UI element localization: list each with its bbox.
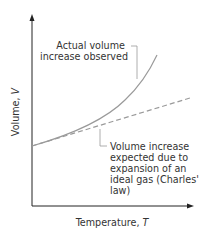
y-axis-arrow-icon <box>30 14 35 21</box>
ideal-label-line4: ideal gas (Charles' <box>110 174 199 185</box>
actual-volume-curve <box>32 55 157 146</box>
ideal-label-line1: Volume increase <box>110 141 189 152</box>
y-axis-label-var: V <box>10 86 21 94</box>
x-axis-arrow-icon <box>187 204 194 209</box>
ideal-leader-line <box>100 129 107 146</box>
x-axis-label-var: T <box>143 217 150 228</box>
x-axis <box>32 204 194 209</box>
ideal-label-line5: law) <box>110 185 130 196</box>
actual-label: Actual volume increase observed <box>40 40 128 62</box>
ideal-label-line2: expected due to <box>110 152 188 163</box>
actual-leader-line <box>131 46 137 79</box>
ideal-label: Volume increase expected due to expansio… <box>110 141 202 196</box>
actual-label-line2: increase observed <box>40 51 128 62</box>
x-axis-label-text: Temperature, <box>75 217 143 228</box>
ideal-label-line3: expansion of an <box>110 163 186 174</box>
x-axis-label: Temperature, T <box>75 217 150 228</box>
y-axis <box>30 14 35 206</box>
y-axis-label: Volume, V <box>10 86 21 136</box>
y-axis-label-text: Volume, <box>10 94 21 136</box>
chart-canvas: Actual volume increase observed Volume i… <box>0 0 206 234</box>
actual-label-line1: Actual volume <box>56 40 125 51</box>
